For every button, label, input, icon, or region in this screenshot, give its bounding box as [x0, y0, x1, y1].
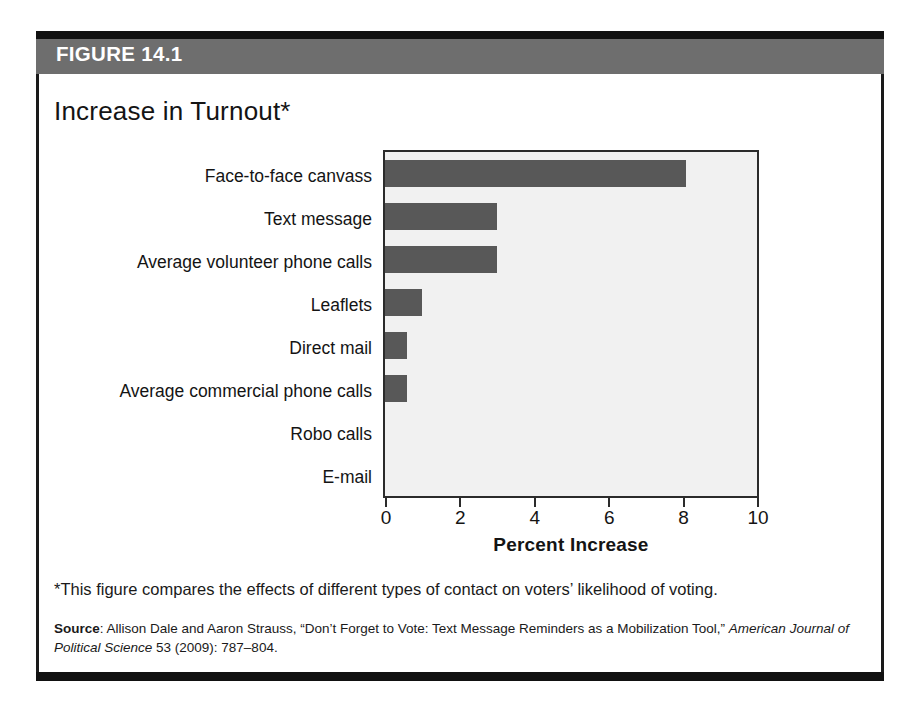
bar: [385, 160, 686, 187]
y-axis-label: Face-to-face canvass: [32, 166, 372, 186]
x-tick-label: 6: [604, 506, 615, 530]
y-axis-label: Leaflets: [32, 295, 372, 315]
y-axis-label: Direct mail: [32, 338, 372, 358]
source-label: Source: [54, 621, 100, 636]
y-axis-label: Robo calls: [32, 424, 372, 444]
source-text: Allison Dale and Aaron Strauss, “Don’t F…: [107, 621, 729, 636]
source-citation: 53 (2009): 787–804.: [152, 640, 277, 655]
bar: [385, 203, 497, 230]
chart-title: Increase in Turnout*: [54, 96, 291, 127]
y-axis-label: Text message: [32, 209, 372, 229]
figure-number-label: FIGURE 14.1: [56, 40, 182, 68]
source-separator: :: [100, 621, 107, 636]
x-tick-label: 0: [381, 506, 392, 530]
y-axis-label: Average volunteer phone calls: [32, 252, 372, 272]
bar-chart: Face-to-face canvassText messageAverage …: [36, 150, 884, 550]
bar: [385, 375, 407, 402]
y-axis-label: E-mail: [32, 467, 372, 487]
figure-bottom-rule: [36, 672, 884, 681]
x-axis-tick-labels: 0246810: [383, 506, 759, 532]
bar: [385, 289, 422, 316]
bar: [385, 332, 407, 359]
y-axis-category-labels: Face-to-face canvassText messageAverage …: [36, 154, 380, 494]
x-tick-label: 2: [455, 506, 466, 530]
plot-area: [383, 150, 759, 498]
bar: [385, 246, 497, 273]
x-tick-label: 4: [530, 506, 541, 530]
figure-footnote: *This figure compares the effects of dif…: [54, 578, 854, 600]
x-tick-label: 10: [747, 506, 768, 530]
figure-source: Source: Allison Dale and Aaron Strauss, …: [54, 620, 860, 657]
x-tick-label: 8: [678, 506, 689, 530]
y-axis-label: Average commercial phone calls: [32, 381, 372, 401]
x-axis-title: Percent Increase: [383, 534, 759, 556]
